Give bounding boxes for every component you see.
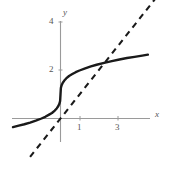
y-axis-tick-label-2: 2 (49, 65, 54, 74)
y-axis-title: y (63, 8, 67, 17)
x-axis-tick-label-1: 1 (77, 123, 82, 132)
plot-canvas (0, 0, 169, 170)
chart-figure: 4 2 1 3 y x (0, 0, 169, 170)
y-axis-tick-label-4: 4 (49, 17, 54, 26)
x-axis-tick-label-3: 3 (115, 123, 120, 132)
x-axis-title: x (155, 110, 159, 119)
